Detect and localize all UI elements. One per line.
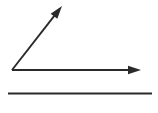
figure-canvas: Angle figure with two rays and a separat… [0, 0, 158, 113]
line-drawing-svg: Angle figure with two rays and a separat… [0, 0, 158, 113]
